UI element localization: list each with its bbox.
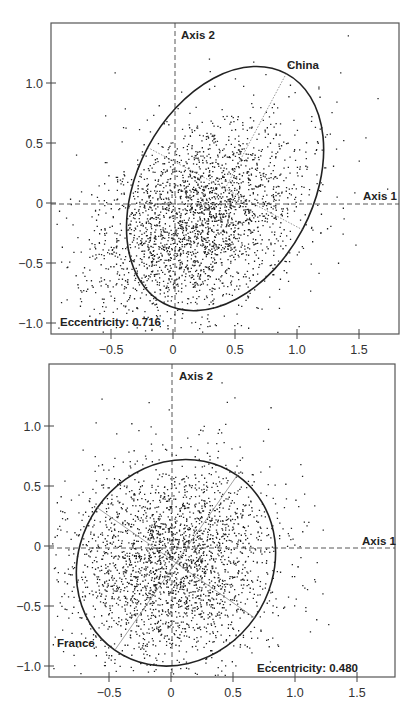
svg-text:−0.5: −0.5 <box>99 343 124 357</box>
svg-text:0: 0 <box>170 343 177 357</box>
svg-text:0: 0 <box>168 686 175 700</box>
axis-ticks: −0.500.51.01.5−1.0−0.500.51.0 <box>18 77 367 358</box>
axis1-label: Axis 1 <box>362 535 396 547</box>
axis1-label: Axis 1 <box>363 190 397 202</box>
svg-text:0.5: 0.5 <box>224 686 241 700</box>
ellipse-country-label: France <box>57 637 95 649</box>
eccentricity-label: Eccentricity: 0.480 <box>257 662 358 674</box>
axis2-label: Axis 2 <box>181 29 215 41</box>
figure: −0.500.51.01.5−1.0−0.500.51.0 Axis 2 Axi… <box>0 0 415 716</box>
svg-text:0.5: 0.5 <box>24 480 41 494</box>
svg-text:0.5: 0.5 <box>26 137 43 151</box>
plot-frame <box>49 364 395 677</box>
plot-frame <box>51 23 399 334</box>
svg-text:−0.5: −0.5 <box>97 686 122 700</box>
svg-text:1.0: 1.0 <box>26 77 43 91</box>
svg-text:0: 0 <box>36 197 43 211</box>
scatter-plot-france: −0.500.51.01.5−1.0−0.500.51.0 Axis 2 Axi… <box>16 364 396 705</box>
svg-text:1.5: 1.5 <box>350 343 367 357</box>
svg-text:1.0: 1.0 <box>288 343 305 357</box>
svg-text:−1.0: −1.0 <box>18 317 43 331</box>
axis2-label: Axis 2 <box>179 370 213 382</box>
scatter-points <box>57 35 389 333</box>
svg-text:−1.0: −1.0 <box>16 660 41 674</box>
svg-text:−0.5: −0.5 <box>16 600 41 614</box>
scatter-plot-china: −0.500.51.01.5−1.0−0.500.51.0 Axis 2 Axi… <box>18 23 399 357</box>
svg-text:0.5: 0.5 <box>226 343 243 357</box>
svg-text:1.0: 1.0 <box>24 420 41 434</box>
ellipse-country-label: China <box>287 59 320 71</box>
svg-text:1.0: 1.0 <box>286 686 303 700</box>
svg-text:−0.5: −0.5 <box>18 257 43 271</box>
eccentricity-label: Eccentricity: 0.716 <box>60 316 161 328</box>
confidence-ellipse <box>87 33 364 345</box>
svg-text:0: 0 <box>34 540 41 554</box>
svg-text:1.5: 1.5 <box>348 686 365 700</box>
scatter-points <box>52 382 329 676</box>
